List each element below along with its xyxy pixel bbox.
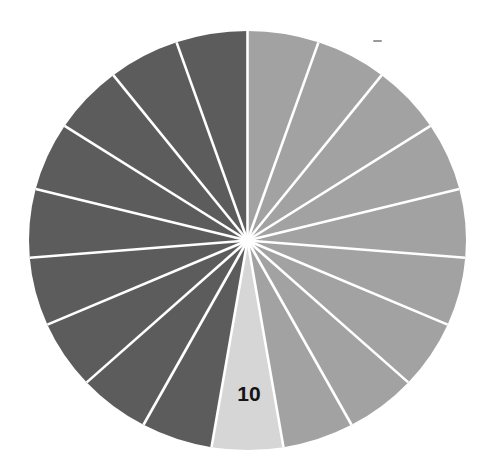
pie-chart: 10 (0, 0, 493, 475)
center-hub (243, 236, 253, 246)
stray-mark (373, 40, 382, 42)
slice-label-10: 10 (237, 382, 260, 405)
